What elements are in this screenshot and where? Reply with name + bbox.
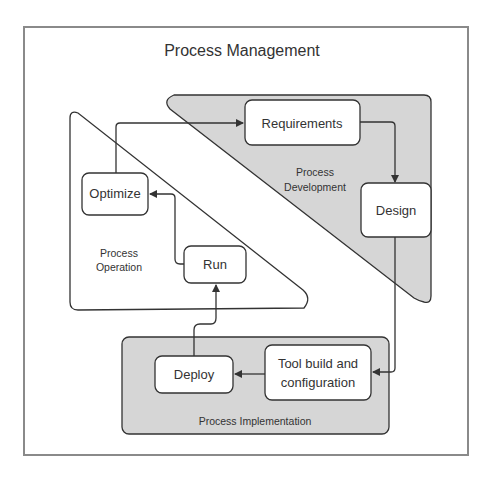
node-run[interactable]: Run	[184, 246, 246, 283]
process-management-diagram: Process Management Requirements Design O…	[0, 0, 491, 479]
development-label-line1: Process	[296, 166, 334, 178]
node-requirements-label: Requirements	[262, 116, 343, 131]
node-deploy-label: Deploy	[174, 367, 215, 382]
node-tool-label-line2: configuration	[281, 375, 355, 390]
node-requirements[interactable]: Requirements	[245, 100, 360, 145]
operation-label-line2: Operation	[96, 261, 142, 273]
implementation-label: Process Implementation	[199, 415, 312, 427]
development-label-line2: Development	[284, 181, 346, 193]
node-tool-build[interactable]: Tool build and configuration	[265, 345, 371, 400]
node-design[interactable]: Design	[361, 183, 431, 237]
operation-label-line1: Process	[100, 247, 138, 259]
node-tool-label-line1: Tool build and	[278, 356, 358, 371]
node-run-label: Run	[203, 257, 227, 272]
diagram-title: Process Management	[164, 42, 320, 59]
node-design-label: Design	[376, 203, 416, 218]
node-deploy[interactable]: Deploy	[155, 356, 233, 393]
node-optimize[interactable]: Optimize	[82, 173, 148, 215]
node-optimize-label: Optimize	[89, 186, 140, 201]
